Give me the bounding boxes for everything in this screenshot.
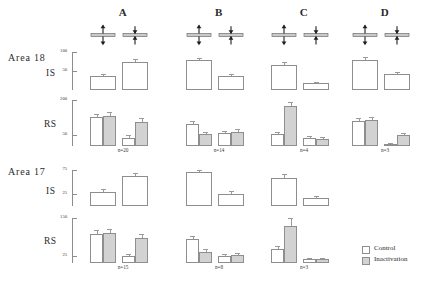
error-bar-cap (101, 74, 106, 75)
error-bar-cap (356, 118, 361, 119)
bar-inactivation (397, 135, 410, 146)
error-bar-cap (133, 173, 138, 174)
y-tick-label: 200 (60, 97, 67, 102)
error-bar-cap (307, 258, 312, 259)
bar-control (90, 192, 116, 206)
bar-control (90, 117, 103, 146)
panel-area18-is-a (88, 52, 158, 90)
error-bar-cap (388, 143, 393, 144)
panel-area17-is-c (269, 170, 339, 206)
area-label-18: Area 18 (8, 52, 46, 63)
bar-control (186, 60, 212, 90)
sample-size-label: n=4 (269, 147, 339, 153)
error-bar-cap (282, 174, 287, 175)
bar-inactivation (316, 259, 329, 263)
converging-arrows-bar-icon (384, 24, 414, 46)
error-bar-cap (190, 121, 195, 122)
stimulus-icons-c (269, 24, 339, 46)
y-tick (72, 52, 77, 53)
y-axis-area18-is: 50100 (72, 52, 73, 90)
bar-control (271, 134, 284, 146)
bar-control (186, 239, 199, 263)
y-axis-area18-rs: 50200 (72, 100, 73, 146)
row-label-rs-1: RS (44, 119, 57, 129)
error-bar-cap (203, 132, 208, 133)
bar-control (186, 124, 199, 146)
y-tick (72, 218, 77, 219)
panel-area18-is-d (350, 52, 420, 90)
error-bar-cap (94, 230, 99, 231)
error-bar-cap (235, 129, 240, 130)
error-bar-cap (139, 234, 144, 235)
bidirectional-arrows-bar-icon (186, 24, 216, 46)
bar-control (352, 60, 378, 90)
y-axis-area17-rs: 25150 (72, 218, 73, 263)
bar-control (218, 194, 244, 206)
error-bar-cap (314, 82, 319, 83)
stimulus-icons-b (184, 24, 254, 46)
panel-area17-is-b (184, 170, 254, 206)
y-tick-label: 100 (60, 49, 67, 54)
row-label-is-2: IS (46, 186, 55, 196)
y-tick (72, 71, 77, 72)
bar-control (303, 138, 316, 146)
bar-inactivation (199, 134, 212, 146)
bar-inactivation (135, 122, 148, 146)
figure-canvas: ABCD Area 18Area 17ISRSISRS 501005020025… (0, 0, 435, 289)
error-bar-cap (101, 189, 106, 190)
error-bar-cap (282, 62, 287, 63)
column-header-b: B (184, 6, 254, 18)
sample-size-label: n=15 (88, 264, 158, 270)
error-bar-cap (229, 191, 234, 192)
error-bar-cap (275, 132, 280, 133)
error-bar (291, 218, 292, 226)
column-header-c: C (269, 6, 339, 18)
error-bar-cap (395, 72, 400, 73)
error-bar-cap (203, 249, 208, 250)
error-bar-cap (363, 57, 368, 58)
error-bar-cap (126, 254, 131, 255)
bar-control (122, 138, 135, 146)
converging-arrows-bar-icon (303, 24, 333, 46)
error-bar-cap (288, 102, 293, 103)
error-bar-cap (222, 254, 227, 255)
bar-inactivation (103, 116, 116, 146)
converging-arrows-bar-icon (122, 24, 152, 46)
bidirectional-arrows-bar-icon (271, 24, 301, 46)
sample-size-label: n=3 (269, 264, 339, 270)
bar-control (90, 76, 116, 90)
y-tick-label: 25 (62, 253, 67, 258)
panel-area18-rs-b (184, 100, 254, 146)
error-bar-cap (107, 229, 112, 230)
y-axis-area17-is: 2575 (72, 170, 73, 206)
bar-inactivation (199, 252, 212, 263)
error-bar-cap (190, 236, 195, 237)
bar-control (218, 256, 231, 263)
legend-swatch-inactivation (362, 257, 370, 265)
error-bar-cap (314, 196, 319, 197)
stimulus-icons-a (88, 24, 158, 46)
bar-control (303, 198, 329, 206)
bar-inactivation (316, 139, 329, 146)
bar-control (384, 144, 397, 146)
bar-control (90, 234, 103, 263)
sample-size-label: n=14 (184, 147, 254, 153)
bar-control (352, 121, 365, 146)
row-label-rs-3: RS (44, 236, 57, 246)
panel-area18-is-b (184, 52, 254, 90)
error-bar-cap (197, 58, 202, 59)
bar-control (303, 83, 329, 90)
bar-control (186, 172, 212, 206)
error-bar-cap (235, 253, 240, 254)
bar-inactivation (284, 226, 297, 263)
bar-inactivation (231, 132, 244, 146)
error-bar-cap (307, 136, 312, 137)
panel-area17-rs-c (269, 218, 339, 263)
error-bar-cap (275, 246, 280, 247)
error-bar-cap (139, 118, 144, 119)
bar-control (303, 259, 316, 263)
sample-size-label: n=8 (184, 264, 254, 270)
bar-control (271, 65, 297, 90)
bar-control (122, 176, 148, 206)
error-bar-cap (133, 59, 138, 60)
